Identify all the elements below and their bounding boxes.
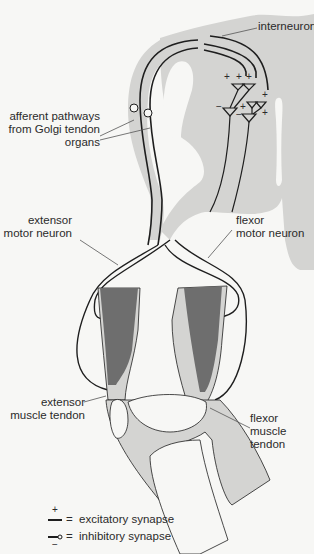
svg-text:+: + bbox=[52, 504, 58, 515]
label-flexor-tendon-1: flexor bbox=[250, 412, 278, 425]
label-afferent-2: from Golgi tendon bbox=[9, 123, 100, 136]
label-interneurons: interneurons bbox=[258, 20, 314, 33]
svg-text:+: + bbox=[236, 71, 242, 82]
label-flexor-tendon-3: tendon bbox=[250, 438, 285, 451]
reflex-diagram: +++ +++ −− + − bbox=[0, 0, 314, 554]
afferent-cell-body-2 bbox=[144, 109, 152, 117]
svg-text:+: + bbox=[262, 89, 268, 100]
label-extensor-motor-2: motor neuron bbox=[4, 227, 72, 240]
afferent-cell-body-1 bbox=[130, 104, 138, 112]
label-afferent-3: organs bbox=[65, 136, 100, 149]
label-flexor-tendon-2: muscle bbox=[250, 425, 286, 438]
svg-text:−: − bbox=[52, 539, 58, 550]
label-afferent-1: afferent pathways bbox=[9, 110, 100, 123]
svg-text:+: + bbox=[224, 71, 230, 82]
svg-text:+: + bbox=[262, 107, 268, 118]
legend-inhibitory-eq: = bbox=[66, 530, 73, 543]
legend-excitatory-label: excitatory synapse bbox=[79, 513, 174, 526]
kneecap bbox=[110, 399, 128, 438]
label-extensor-tendon-2: muscle tendon bbox=[10, 409, 85, 422]
legend-excitatory-eq: = bbox=[66, 513, 73, 526]
svg-text:−: − bbox=[216, 101, 222, 112]
label-flexor-motor-2: motor neuron bbox=[236, 227, 304, 240]
legend-inhibitory-label: inhibitory synapse bbox=[79, 530, 171, 543]
svg-text:+: + bbox=[246, 71, 252, 82]
svg-text:−: − bbox=[236, 109, 242, 120]
label-flexor-motor-1: flexor bbox=[236, 214, 264, 227]
label-extensor-tendon-1: extensor bbox=[41, 396, 85, 409]
label-extensor-motor-1: extensor bbox=[28, 214, 72, 227]
